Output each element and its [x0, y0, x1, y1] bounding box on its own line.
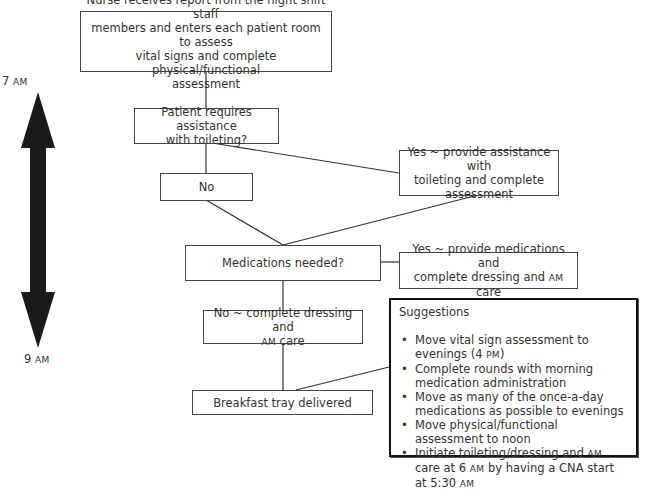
- text-run: care: [476, 285, 501, 299]
- node-toileting-yes-line: Yes ~ provide assistance with: [404, 145, 554, 173]
- node-start-line: vital signs and complete physical/functi…: [85, 49, 327, 77]
- suggestions-panel: Suggestions Move vital sign assessment t…: [389, 298, 638, 457]
- text-run: AM: [470, 464, 485, 474]
- timeline-start-label: 7 AM: [2, 74, 28, 88]
- suggestion-item: Move as many of the once-a-day medicatio…: [415, 390, 628, 418]
- timeline-end-hour: 9: [24, 352, 31, 366]
- timeline-start-suffix: AM: [13, 77, 28, 87]
- connector-toileting-to-yes: [212, 143, 399, 173]
- timeline-end-suffix: AM: [35, 355, 50, 365]
- connector-suggestions-to-breakfast: [296, 367, 389, 390]
- node-medications-yes: Yes ~ provide medications and complete d…: [399, 252, 578, 289]
- node-toileting-yes-line: toileting and complete: [414, 173, 544, 187]
- text-run: AM: [549, 273, 564, 283]
- suggestion-item: Move physical/functional assessment to n…: [415, 418, 628, 446]
- timeline-start-hour: 7: [2, 74, 9, 88]
- node-medications-question-label: Medications needed?: [222, 256, 344, 270]
- node-start-line: assessment: [172, 77, 240, 91]
- node-toileting-question-line: Patient requires assistance: [139, 105, 274, 133]
- node-breakfast: Breakfast tray delivered: [192, 390, 373, 415]
- text-run: care at 6: [415, 461, 470, 475]
- node-medications-no: No ~ complete dressing and AM care: [203, 310, 363, 344]
- text-run: Complete rounds with morning medication …: [415, 362, 593, 390]
- suggestion-item: Complete rounds with morning medication …: [415, 362, 628, 390]
- node-start-line: Nurse receives report from the night shi…: [85, 0, 327, 21]
- node-toileting-question: Patient requires assistance with toileti…: [134, 108, 279, 144]
- text-run: Move physical/functional assessment to n…: [415, 418, 558, 446]
- text-run: AM: [588, 449, 603, 459]
- text-run: complete dressing and: [414, 270, 549, 284]
- node-breakfast-label: Breakfast tray delivered: [213, 396, 352, 410]
- node-medications-no-line: No ~ complete dressing and: [208, 306, 358, 334]
- suggestions-list: Move vital sign assessment to evenings (…: [399, 333, 628, 491]
- text-run: PM: [486, 350, 500, 360]
- connector-yes-to-medications: [283, 195, 478, 245]
- connector-no-to-medications: [206, 200, 283, 245]
- node-toileting-no-label: No: [199, 180, 215, 194]
- node-medications-no-line: AM care: [261, 334, 304, 349]
- node-start-line: members and enters each patient room to …: [85, 21, 327, 49]
- node-medications-yes-line: complete dressing and AM care: [404, 270, 573, 299]
- node-toileting-question-line: with toileting?: [166, 133, 247, 147]
- text-run: AM: [261, 337, 276, 347]
- suggestion-item: Initiate toileting/dressing and AM care …: [415, 446, 628, 491]
- text-run: care: [276, 334, 305, 348]
- text-run: AM: [460, 479, 475, 489]
- suggestions-title: Suggestions: [399, 305, 628, 319]
- node-toileting-yes-line: assessment: [445, 187, 513, 201]
- node-toileting-no: No: [160, 173, 253, 201]
- node-medications-question: Medications needed?: [185, 245, 381, 281]
- text-run: Move as many of the once-a-day medicatio…: [415, 390, 623, 418]
- node-medications-yes-line: Yes ~ provide medications and: [404, 242, 573, 270]
- suggestion-item: Move vital sign assessment to evenings (…: [415, 333, 628, 362]
- timeline-arrow-icon: [21, 92, 55, 348]
- node-toileting-yes: Yes ~ provide assistance with toileting …: [399, 150, 559, 196]
- node-start: Nurse receives report from the night shi…: [80, 11, 332, 72]
- text-run: Initiate toileting/dressing and: [415, 446, 588, 460]
- timeline-end-label: 9 AM: [24, 352, 50, 366]
- text-run: ): [500, 347, 505, 361]
